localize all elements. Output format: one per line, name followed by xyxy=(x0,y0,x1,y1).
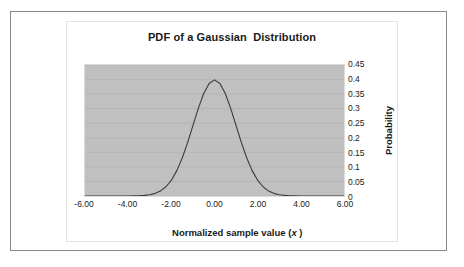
y-axis-tick-label: 0.3 xyxy=(348,103,374,113)
x-axis-tick-label: -2.00 xyxy=(148,199,194,210)
y-axis-title: Probability xyxy=(383,64,399,197)
x-axis-title-prefix: Normalized sample value ( xyxy=(172,227,291,238)
x-axis-tick-label: 2.00 xyxy=(235,199,281,210)
x-axis-title: Normalized sample value (x ) xyxy=(66,216,398,249)
x-axis-tick-label: -4.00 xyxy=(105,199,151,210)
y-axis-tick-label: 0.4 xyxy=(348,74,374,84)
y-axis-tick-label: 0.35 xyxy=(348,89,374,99)
chart-title: PDF of a Gaussian Distribution xyxy=(66,31,398,43)
x-axis-tick-label: 4.00 xyxy=(279,199,325,210)
gaussian-curve xyxy=(85,65,344,196)
y-axis-tick-label: 0.45 xyxy=(348,59,374,69)
x-axis-tick-label: 6.00 xyxy=(322,199,368,210)
y-axis-tick-label: 0.05 xyxy=(348,177,374,187)
y-axis-tick-label: 0.1 xyxy=(348,162,374,172)
y-axis-tick-label: 0.2 xyxy=(348,133,374,143)
x-axis-tick-label: -6.00 xyxy=(61,199,107,210)
chart-screenshot: PDF of a Gaussian Distribution 00.050.10… xyxy=(0,0,464,267)
y-axis-tick-labels: 00.050.10.150.20.250.30.350.40.45 xyxy=(348,57,374,204)
y-axis-tick-label: 0.25 xyxy=(348,118,374,128)
plot-area xyxy=(84,64,345,197)
x-axis-title-suffix: ) xyxy=(297,227,303,238)
x-axis-tick-label: 0.00 xyxy=(192,199,238,210)
x-axis-tick-labels: -6.00-4.00-2.000.002.004.006.00 xyxy=(84,199,345,211)
y-axis-tick-label: 0.15 xyxy=(348,148,374,158)
